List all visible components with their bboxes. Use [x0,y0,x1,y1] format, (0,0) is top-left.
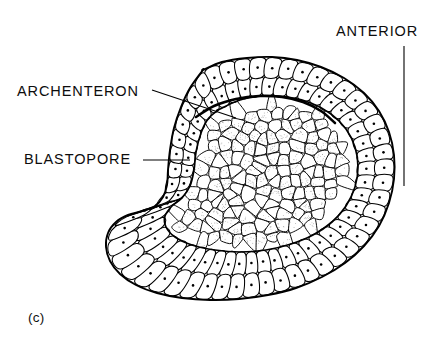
yolk-stipple [313,113,314,114]
yolk-stipple [245,126,246,127]
yolk-stipple [281,182,282,183]
yolk-stipple [295,156,296,157]
yolk-stipple [284,186,285,187]
cell-nucleus [349,118,352,121]
yolk-stipple [257,167,258,168]
yolk-stipple [344,168,345,169]
cell-nucleus [330,101,333,104]
yolk-stipple [215,148,216,149]
yolk-stipple [257,169,258,170]
yolk-stipple [258,243,259,244]
yolk-stipple [295,114,296,115]
cell-nucleus [382,151,385,154]
yolk-stipple [203,245,204,246]
yolk-stipple [297,122,298,123]
yolk-stipple [235,210,236,211]
yolk-stipple [217,212,218,213]
yolk-stipple [290,222,291,223]
cell-nucleus [181,123,184,126]
yolk-stipple [237,197,238,198]
yolk-stipple [283,158,284,159]
yolk-stipple [252,231,253,232]
cell-nucleus [294,88,297,91]
yolk-stipple [248,182,249,183]
yolk-stipple [251,119,252,120]
yolk-stipple [332,175,333,176]
yolk-stipple [274,106,275,107]
cell-nucleus [210,101,213,104]
yolk-stipple [234,149,235,150]
yolk-stipple [285,159,286,160]
yolk-stipple [234,231,235,232]
yolk-stipple [313,136,314,137]
yolk-stipple [218,189,219,190]
yolk-stipple [288,185,289,186]
yolk-stipple [285,137,286,138]
yolk-stipple [250,183,251,184]
yolk-stipple [301,199,302,200]
yolk-stipple [213,132,214,133]
yolk-stipple [233,146,234,147]
yolk-stipple [252,149,253,150]
yolk-stipple [234,241,235,242]
yolk-stipple [263,190,264,191]
yolk-stipple [212,146,213,147]
yolk-stipple [253,238,254,239]
yolk-stipple [253,182,254,183]
yolk-stipple [263,215,264,216]
yolk-stipple [288,213,289,214]
yolk-stipple [251,170,252,171]
yolk-stipple [342,157,343,158]
cell-nucleus [361,194,364,197]
yolk-stipple [214,223,215,224]
yolk-stipple [313,183,314,184]
yolk-stipple [218,228,219,229]
yolk-stipple [222,236,223,237]
yolk-stipple [254,179,255,180]
cell-nucleus [318,241,321,244]
yolk-stipple [228,131,229,132]
yolk-stipple [283,226,284,227]
yolk-stipple [217,223,218,224]
yolk-stipple [284,218,285,219]
cell-nucleus [175,153,178,156]
yolk-stipple [333,152,334,153]
cell-nucleus [256,66,259,69]
yolk-stipple [241,203,242,204]
yolk-stipple [227,222,228,223]
cell-nucleus [154,237,157,240]
yolk-stipple [282,163,283,164]
yolk-stipple [321,148,322,149]
yolk-stipple [317,161,318,162]
yolk-stipple [249,169,250,170]
yolk-stipple [319,179,320,180]
yolk-stipple [271,232,272,233]
yolk-stipple [254,136,255,137]
figure-panel: ARCHENTERON BLASTOPORE ANTERIOR (c) [0,0,445,348]
yolk-stipple [216,171,217,172]
yolk-stipple [270,159,271,160]
yolk-stipple [278,192,279,193]
yolk-stipple [266,192,267,193]
cell-nucleus [232,91,235,94]
cell-nucleus [192,284,195,287]
yolk-stipple [270,227,271,228]
yolk-stipple [254,169,255,170]
yolk-stipple [289,239,290,240]
cell-nucleus [343,89,346,92]
yolk-stipple [238,126,239,127]
yolk-stipple [295,214,296,215]
yolk-stipple [248,179,249,180]
yolk-stipple [263,192,264,193]
yolk-stipple [323,145,324,146]
yolk-stipple [221,171,222,172]
yolk-stipple [302,134,303,135]
yolk-stipple [286,243,287,244]
yolk-stipple [216,150,217,151]
yolk-stipple [270,229,271,230]
cell-nucleus [206,285,209,288]
yolk-stipple [213,234,214,235]
yolk-stipple [249,180,250,181]
yolk-stipple [249,161,250,162]
yolk-stipple [255,117,256,118]
